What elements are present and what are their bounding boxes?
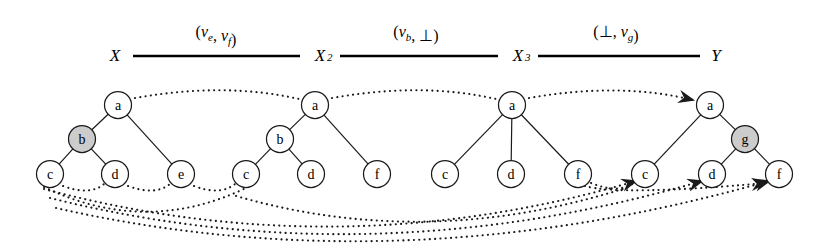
tree-X-edge-1 xyxy=(92,114,108,129)
tree-node-t4-a[interactable]: a xyxy=(697,92,724,119)
map-d-X-to-e xyxy=(128,184,170,191)
tree-X3: acdf xyxy=(432,92,592,188)
tree-X: abcde xyxy=(37,92,195,188)
tree-node-t3-d[interactable]: d xyxy=(498,161,525,188)
tree-node-t4-d[interactable]: d xyxy=(699,161,726,188)
tree-node-label-t2-a: a xyxy=(312,98,319,113)
tree-Y: agcdf xyxy=(632,92,793,188)
tree-node-label-t4-c: c xyxy=(642,167,648,182)
tree-node-label-t4-a: a xyxy=(707,98,714,113)
tree-node-t1-a[interactable]: a xyxy=(105,92,132,119)
tree-Y-edge-3 xyxy=(721,149,735,164)
tree-node-label-t4-g: g xyxy=(742,132,749,147)
tree-Y-edge-2 xyxy=(720,114,736,129)
sequence-state-subscript-X2: 2 xyxy=(327,51,333,63)
tree-node-label-t1-a: a xyxy=(115,98,122,113)
map-c-X-to-d xyxy=(63,184,104,191)
sequence-state-label-X2: X xyxy=(314,46,326,65)
tree-X3-edge-1 xyxy=(454,115,502,165)
tree-node-label-t2-b: b xyxy=(277,132,284,147)
tree-X-edge-4 xyxy=(91,149,105,164)
sequence-state-Y: Y xyxy=(711,46,722,65)
map-a-X-to-X2 xyxy=(135,90,299,99)
tree-X3-edge-3 xyxy=(521,115,568,164)
map-a-X2-to-X3 xyxy=(332,90,496,99)
tree-node-t3-a[interactable]: a xyxy=(499,92,526,119)
sequence-state-subscript-X3: 3 xyxy=(524,51,531,63)
tree-node-t1-e[interactable]: e xyxy=(168,161,195,188)
sequence-state-label-X: X xyxy=(109,46,121,65)
map-e-X-to-c2 xyxy=(194,184,235,191)
edge-annotation-3: (⊥, vg) xyxy=(593,23,638,45)
tree-X3-edge-2 xyxy=(511,118,512,160)
tree-node-label-t4-d: d xyxy=(709,167,716,182)
tree-node-label-t2-c: c xyxy=(243,167,249,182)
tree-node-label-t1-c: c xyxy=(47,167,53,182)
tree-layer: abcdeabcdfacdfagcdf xyxy=(37,92,793,188)
tree-X2-edge-4 xyxy=(289,149,302,164)
edge-annotation-2: (vb, ⊥) xyxy=(393,23,438,45)
sequence-state-label-X3: X xyxy=(512,46,524,65)
tree-X2-edge-1 xyxy=(290,114,306,129)
tree-X2: abcdf xyxy=(233,92,391,188)
figure-canvas: (ve, vf)(vb, ⊥)(⊥, vg)XX2X3Y abcdeabcdfa… xyxy=(0,0,827,248)
tree-node-label-t3-c: c xyxy=(442,167,448,182)
tree-edit-sequence-figure: (ve, vf)(vb, ⊥)(⊥, vg)XX2X3Y abcdeabcdfa… xyxy=(0,0,827,248)
sequence-state-X: X xyxy=(109,46,121,65)
node-mapping-layer xyxy=(44,90,769,241)
tree-node-t4-c[interactable]: c xyxy=(632,161,659,188)
tree-X-edge-3 xyxy=(59,149,73,164)
tree-node-t1-d[interactable]: d xyxy=(102,161,129,188)
tree-node-t1-c[interactable]: c xyxy=(37,161,64,188)
tree-node-t4-g[interactable]: g xyxy=(732,126,759,153)
tree-node-label-t1-b: b xyxy=(79,132,86,147)
sequence-state-X3: X3 xyxy=(512,46,531,65)
tree-node-label-t1-e: e xyxy=(178,167,184,182)
sequence-state-label-Y: Y xyxy=(711,46,722,65)
tree-X2-edge-2 xyxy=(324,115,368,164)
tree-node-t2-b[interactable]: b xyxy=(267,126,294,153)
tree-node-t3-f[interactable]: f xyxy=(565,161,592,188)
tree-node-t2-a[interactable]: a xyxy=(302,92,329,119)
tree-Y-edge-1 xyxy=(654,115,700,164)
tree-X-edge-2 xyxy=(127,115,172,164)
tree-node-label-t3-d: d xyxy=(508,167,515,182)
tree-node-t1-b[interactable]: b xyxy=(69,126,96,153)
tree-node-label-t3-f: f xyxy=(576,167,581,182)
tree-node-t2-d[interactable]: d xyxy=(298,161,325,188)
tree-node-t2-c[interactable]: c xyxy=(233,161,260,188)
tree-node-t4-f[interactable]: f xyxy=(766,161,793,188)
map-c2-to-Y xyxy=(236,186,632,222)
map-a-X3-to-Y xyxy=(529,90,693,100)
state-sequence-layer: (ve, vf)(vb, ⊥)(⊥, vg)XX2X3Y xyxy=(109,23,722,65)
tree-node-t3-c[interactable]: c xyxy=(432,161,459,188)
tree-node-label-t1-d: d xyxy=(112,167,119,182)
tree-node-t2-f[interactable]: f xyxy=(364,161,391,188)
tree-node-label-t4-f: f xyxy=(777,167,782,182)
tree-node-label-t2-d: d xyxy=(308,167,315,182)
tree-X2-edge-3 xyxy=(255,149,270,165)
tree-node-label-t3-a: a xyxy=(509,98,516,113)
edge-annotation-1: (ve, vf) xyxy=(196,23,237,49)
sequence-state-X2: X2 xyxy=(314,46,333,65)
tree-Y-edge-4 xyxy=(754,149,769,165)
tree-node-label-t2-f: f xyxy=(375,167,380,182)
